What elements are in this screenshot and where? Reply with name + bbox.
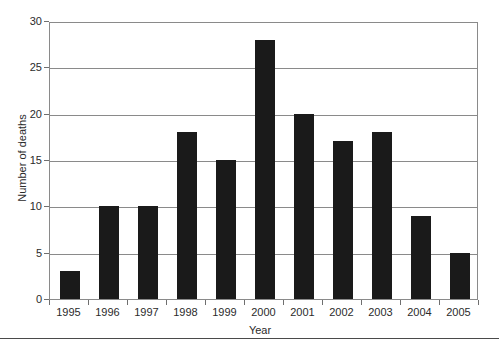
x-tick-mark-6 xyxy=(283,300,284,305)
x-tick-label-1999: 1999 xyxy=(205,306,245,318)
plot-area xyxy=(49,22,478,300)
bar-chart-figure: 051015202530 199519961997199819992000200… xyxy=(0,0,499,349)
bar-1999 xyxy=(216,160,236,299)
x-tick-label-1995: 1995 xyxy=(49,306,89,318)
bar-2002 xyxy=(333,141,353,299)
x-tick-mark-8 xyxy=(361,300,362,305)
bar-2001 xyxy=(294,114,314,299)
x-tick-label-1997: 1997 xyxy=(127,306,167,318)
x-tick-mark-2 xyxy=(127,300,128,305)
y-tick-label-15: 15 xyxy=(30,155,42,166)
bar-2004 xyxy=(411,216,431,299)
y-tick-label-30: 30 xyxy=(30,16,42,27)
bar-1997 xyxy=(138,206,158,299)
x-tick-mark-5 xyxy=(244,300,245,305)
bar-1998 xyxy=(177,132,197,299)
x-tick-label-2003: 2003 xyxy=(361,306,401,318)
x-tick-mark-3 xyxy=(166,300,167,305)
x-axis-title: Year xyxy=(235,324,285,336)
x-tick-label-2002: 2002 xyxy=(322,306,362,318)
x-tick-mark-end xyxy=(478,300,479,305)
bar-1996 xyxy=(99,206,119,299)
x-tick-label-1998: 1998 xyxy=(166,306,206,318)
bar-2005 xyxy=(450,253,470,299)
x-tick-mark-0 xyxy=(49,300,50,305)
x-tick-mark-10 xyxy=(439,300,440,305)
x-tick-mark-9 xyxy=(400,300,401,305)
y-tick-label-0: 0 xyxy=(36,294,42,305)
x-tick-label-2005: 2005 xyxy=(439,306,479,318)
bar-series xyxy=(50,23,477,299)
y-tick-label-10: 10 xyxy=(30,201,42,212)
x-tick-mark-7 xyxy=(322,300,323,305)
bar-2000 xyxy=(255,40,275,299)
y-axis-title: Number of deaths xyxy=(16,88,28,228)
x-tick-label-2001: 2001 xyxy=(283,306,323,318)
x-tick-mark-1 xyxy=(88,300,89,305)
bar-1995 xyxy=(60,271,80,299)
y-tick-label-25: 25 xyxy=(30,62,42,73)
x-tick-label-2004: 2004 xyxy=(400,306,440,318)
bar-2003 xyxy=(372,132,392,299)
x-tick-mark-4 xyxy=(205,300,206,305)
y-tick-label-5: 5 xyxy=(36,248,42,259)
footer-divider xyxy=(0,338,499,339)
y-tick-label-20: 20 xyxy=(30,109,42,120)
x-tick-label-1996: 1996 xyxy=(88,306,128,318)
x-tick-label-2000: 2000 xyxy=(244,306,284,318)
